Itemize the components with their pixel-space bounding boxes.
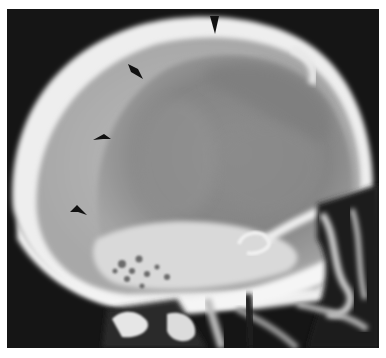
xray-image <box>7 9 379 348</box>
skull-radiograph <box>7 9 379 348</box>
